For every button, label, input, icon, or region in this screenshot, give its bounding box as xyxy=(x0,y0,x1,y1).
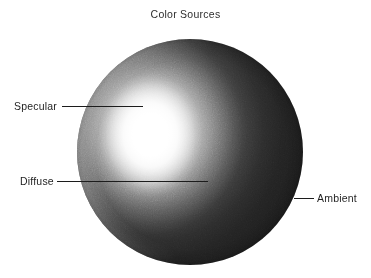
color-sources-figure: Color Sources xyxy=(0,0,371,278)
leader-line-ambient xyxy=(294,198,314,199)
sphere-grain-texture xyxy=(77,39,303,265)
figure-title: Color Sources xyxy=(0,8,371,20)
callout-label-diffuse: Diffuse xyxy=(20,176,54,187)
callout-label-ambient: Ambient xyxy=(317,193,357,204)
leader-line-specular xyxy=(62,106,143,107)
shaded-sphere-illustration xyxy=(77,39,303,265)
callout-label-specular: Specular xyxy=(14,101,57,112)
leader-line-diffuse xyxy=(57,181,208,182)
